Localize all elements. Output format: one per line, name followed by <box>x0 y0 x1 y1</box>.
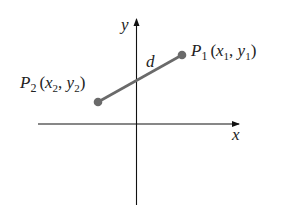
distance-diagram: x y d P1(x1, y1) P2(x2, y2) <box>0 0 291 209</box>
point-p1 <box>178 51 187 60</box>
y-axis-label: y <box>119 15 129 34</box>
distance-label: d <box>146 52 155 71</box>
point-p1-label: P1(x1, y1) <box>190 41 256 63</box>
point-p2-label: P2(x2, y2) <box>19 73 85 95</box>
x-axis-label: x <box>231 125 240 144</box>
point-p2 <box>94 98 103 107</box>
distance-segment <box>98 55 182 102</box>
